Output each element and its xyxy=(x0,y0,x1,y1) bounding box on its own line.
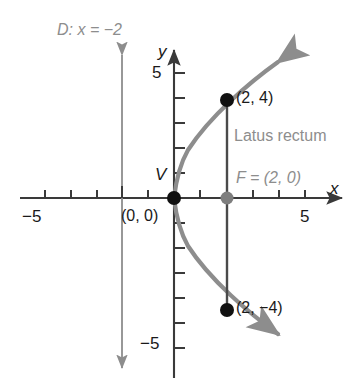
origin-label: (0, 0) xyxy=(121,208,158,224)
vertex-label: V xyxy=(155,166,166,183)
x-tick-label-minus-5: −5 xyxy=(22,208,41,225)
latus-rectum-endpoint-lower xyxy=(220,303,234,317)
x-axis xyxy=(20,190,342,198)
y-tick-label-5: 5 xyxy=(152,64,161,81)
vertex-point xyxy=(167,191,181,205)
x-axis-label: x xyxy=(330,180,339,197)
focus-point xyxy=(221,192,234,205)
lower-point-label: (2, −4) xyxy=(236,300,283,316)
y-tick-label-minus-5: −5 xyxy=(140,335,159,352)
focus-label: F = (2, 0) xyxy=(236,170,301,186)
parabola-figure: D: x = −2 y x 5 −5 5 −5 V (0, 0) F = (2,… xyxy=(0,0,362,386)
y-axis-label: y xyxy=(158,43,167,60)
parabola-plot-svg xyxy=(0,0,362,386)
latus-rectum-label: Latus rectum xyxy=(234,128,326,144)
latus-rectum-endpoint-upper xyxy=(220,93,234,107)
x-tick-label-5: 5 xyxy=(300,208,309,225)
directrix-label: D: x = −2 xyxy=(57,22,122,38)
upper-point-label: (2, 4) xyxy=(236,90,273,106)
